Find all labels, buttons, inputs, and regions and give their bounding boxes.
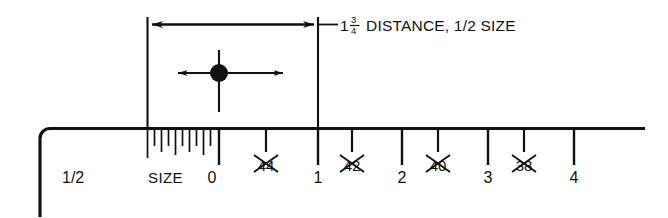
- struck-label-44: 44: [254, 155, 278, 174]
- struck-label-38: 38: [512, 155, 536, 174]
- callout-description: DISTANCE, 1/2 SIZE: [366, 17, 516, 34]
- center-point-marker: [178, 50, 283, 112]
- tick-label-3: 3: [484, 169, 493, 186]
- struck-tick-marks: [266, 129, 524, 153]
- size-label: SIZE: [148, 169, 183, 186]
- dimension-callout: 1 3 4 DISTANCE, 1/2 SIZE: [340, 14, 516, 36]
- callout-fraction-numerator: 3: [351, 14, 356, 25]
- struck-label-42: 42: [340, 155, 364, 174]
- callout-whole-number: 1: [340, 17, 349, 34]
- tick-label-0: 0: [208, 169, 217, 186]
- half-size-label: 1/2: [62, 169, 84, 186]
- tick-label-2: 2: [398, 169, 407, 186]
- struck-label-40: 40: [426, 155, 450, 174]
- fine-graduations: [148, 129, 211, 159]
- ruler-body: [40, 129, 645, 218]
- center-point-dot: [210, 64, 228, 82]
- tick-label-1: 1: [314, 169, 323, 186]
- diagram-canvas: 1/2 SIZE 0 1 2 3 4 44 42 40 38 1 3: [0, 0, 668, 217]
- tick-label-4: 4: [570, 169, 579, 186]
- callout-fraction-denominator: 4: [351, 25, 356, 36]
- ruler-outline: [40, 129, 645, 218]
